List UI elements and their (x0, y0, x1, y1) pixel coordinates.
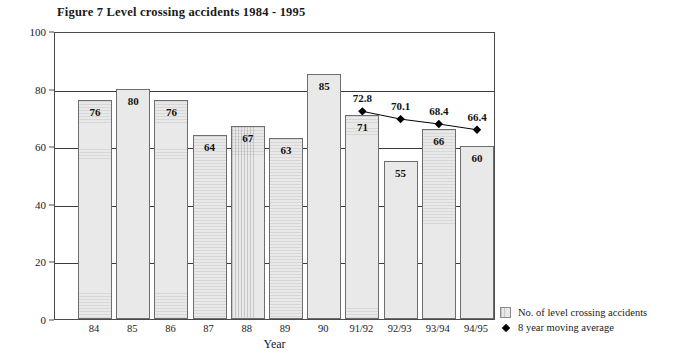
diamond-marker-icon (500, 322, 511, 333)
y-tick-label: 0 (41, 314, 47, 326)
data-point-marker (396, 115, 404, 123)
bar-value-label: 64 (204, 141, 215, 153)
bar (78, 100, 112, 319)
bar-value-label: 55 (395, 167, 406, 179)
legend-label-moving-average: 8 year moving average (518, 322, 614, 333)
data-point-label: 66.4 (467, 111, 486, 123)
bar-value-label: 85 (319, 80, 330, 92)
bar-value-label: 80 (128, 95, 139, 107)
x-tick-label: 89 (280, 323, 291, 334)
data-point-marker (473, 126, 481, 134)
bar (422, 129, 456, 319)
plot-area: 768076646763857155666072.870.168.466.4 (54, 32, 495, 320)
x-tick-label: 84 (89, 323, 100, 334)
bar-value-label: 71 (357, 121, 368, 133)
data-point-marker (435, 120, 443, 128)
legend-item-accidents: No. of level crossing accidents (500, 305, 698, 320)
legend-item-moving-average: 8 year moving average (500, 320, 698, 335)
y-tick-label: 40 (35, 199, 46, 211)
bar (269, 138, 303, 319)
x-axis-title: Year (54, 337, 495, 352)
x-tick-label: 90 (318, 323, 329, 334)
data-point-label: 72.8 (353, 92, 372, 104)
x-tick-label: 92/93 (388, 323, 412, 334)
bar (460, 146, 494, 319)
bar-value-label: 66 (433, 135, 444, 147)
plot-inner: 768076646763857155666072.870.168.466.4 (55, 33, 494, 319)
x-tick-label: 87 (203, 323, 214, 334)
y-tick-label: 100 (30, 26, 47, 38)
x-tick-label: 94/95 (464, 323, 488, 334)
chart-legend: No. of level crossing accidents 8 year m… (500, 305, 698, 335)
bar (116, 89, 150, 319)
bar-value-label: 60 (472, 152, 483, 164)
x-tick-label: 93/94 (426, 323, 450, 334)
data-point-label: 70.1 (391, 100, 410, 112)
bar (345, 115, 379, 319)
bar-swatch-icon (500, 307, 511, 318)
moving-average-polyline (362, 111, 477, 129)
bar-value-label: 63 (281, 144, 292, 156)
x-tick-label: 91/92 (349, 323, 373, 334)
bar (384, 161, 418, 319)
y-tick-label: 80 (35, 84, 46, 96)
y-axis: 020406080100 (0, 32, 54, 320)
bar-value-label: 76 (166, 106, 177, 118)
x-tick-label: 85 (127, 323, 138, 334)
page-title: Figure 7 Level crossing accidents 1984 -… (57, 5, 305, 20)
bar-value-label: 76 (90, 106, 101, 118)
bar (307, 74, 341, 319)
x-tick-label: 88 (242, 323, 253, 334)
y-tick-label: 20 (35, 256, 46, 268)
legend-label-accidents: No. of level crossing accidents (518, 307, 647, 318)
bar (154, 100, 188, 319)
bar (193, 135, 227, 319)
bar-value-label: 67 (242, 132, 253, 144)
data-point-label: 68.4 (429, 105, 448, 117)
bar (231, 126, 265, 319)
y-tick-label: 60 (35, 141, 46, 153)
x-tick-label: 86 (165, 323, 176, 334)
